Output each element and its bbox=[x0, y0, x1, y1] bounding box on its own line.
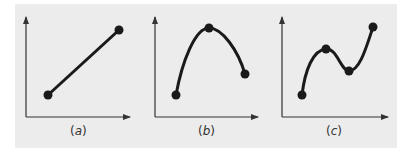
data-point bbox=[44, 91, 53, 100]
caption-a: (a) bbox=[70, 124, 87, 138]
data-point bbox=[298, 91, 307, 100]
plot-b bbox=[155, 17, 258, 117]
data-point bbox=[345, 67, 354, 76]
data-point bbox=[115, 26, 124, 35]
data-point bbox=[322, 45, 331, 54]
data-point bbox=[241, 70, 250, 79]
caption-c: (c) bbox=[326, 124, 342, 138]
plot-a bbox=[26, 17, 130, 117]
curve-a bbox=[48, 30, 119, 95]
curve-b bbox=[176, 28, 245, 95]
caption-b: (b) bbox=[198, 124, 215, 138]
curve-c bbox=[302, 27, 373, 95]
data-point bbox=[205, 24, 214, 33]
plot-c bbox=[282, 17, 388, 117]
data-point bbox=[369, 23, 378, 32]
data-point bbox=[172, 91, 181, 100]
